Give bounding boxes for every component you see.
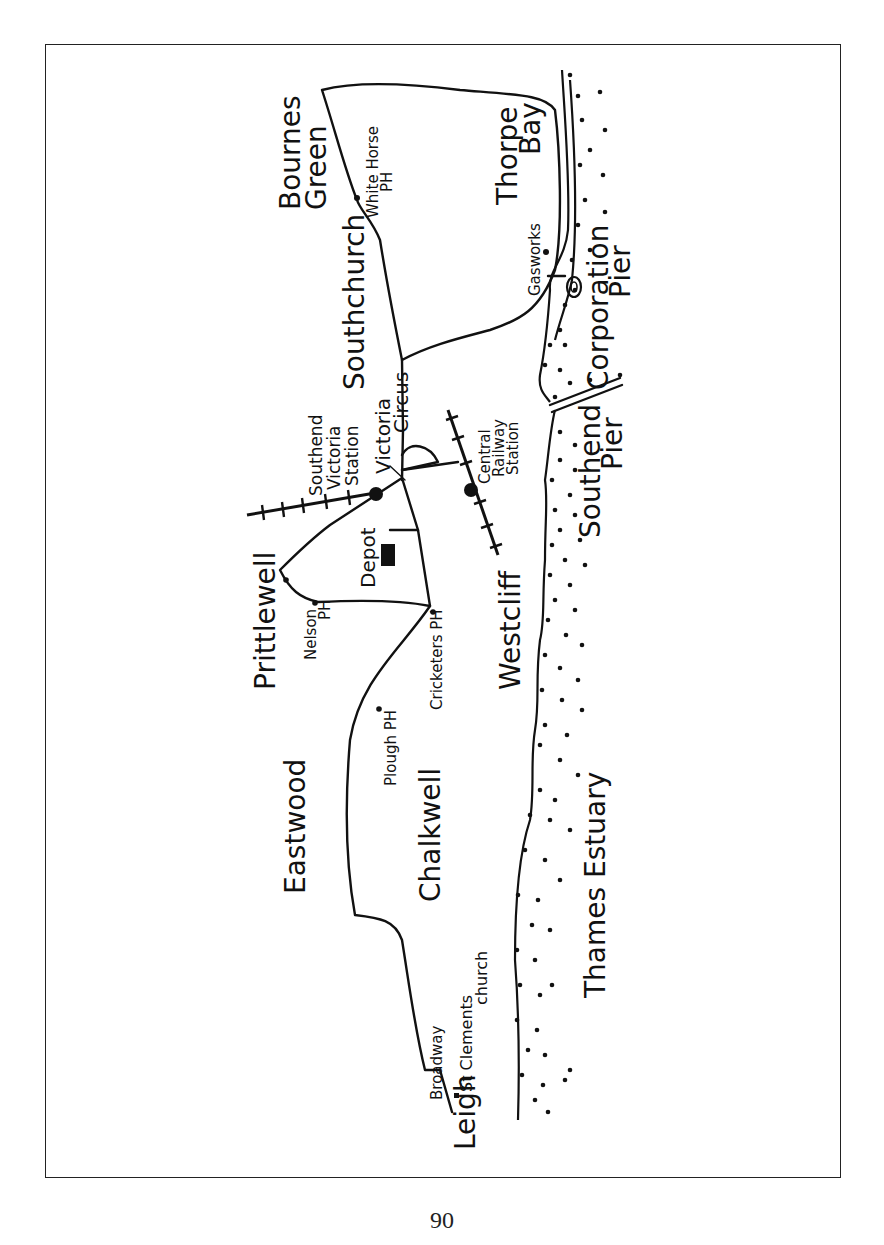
label-southend-pier-2: Pier — [596, 417, 629, 470]
plough-marker — [376, 706, 382, 712]
label-southend: Southend — [306, 415, 326, 496]
label-westcliff: Westcliff — [494, 570, 527, 690]
white-horse-marker — [354, 195, 360, 201]
label-green: Green — [300, 125, 333, 210]
labels: Bournes Green White Horse PH Thorpe Bay … — [249, 95, 637, 1150]
label-bay: Bay — [514, 102, 547, 155]
label-broadway: Broadway — [428, 1026, 446, 1100]
label-gasworks: Gasworks — [526, 223, 544, 296]
label-railway-station: Station — [504, 422, 522, 475]
label-station: Station — [342, 426, 362, 486]
label-chalkwell: Chalkwell — [414, 768, 447, 902]
label-leigh: Leigh — [449, 1074, 482, 1150]
label-southchurch: Southchurch — [338, 214, 371, 390]
label-nelson-ph: PH — [316, 600, 334, 620]
victoria-station-marker — [369, 487, 383, 501]
depot-marker — [381, 544, 395, 566]
central-station-marker — [464, 483, 478, 497]
label-white-horse-ph: PH — [378, 172, 396, 192]
page-number: 90 — [0, 1207, 884, 1234]
label-church: church — [472, 951, 491, 1005]
tram-route-map: Bournes Green White Horse PH Thorpe Bay … — [0, 0, 884, 1245]
label-prittlewell: Prittlewell — [249, 552, 282, 690]
label-eastwood: Eastwood — [279, 759, 312, 894]
label-thames-estuary: Thames Estuary — [579, 772, 612, 999]
label-plough: Plough PH — [382, 710, 400, 786]
label-corporation-pier: Pier — [604, 245, 637, 298]
label-victoria-circus-2: Circus — [389, 372, 413, 433]
prittlewell-marker — [283, 577, 289, 583]
book-page: Bournes Green White Horse PH Thorpe Bay … — [0, 0, 884, 1245]
corporation-pier — [548, 276, 581, 297]
label-victoria: Victoria — [324, 425, 344, 490]
label-depot: Depot — [356, 527, 380, 588]
label-cricketers: Cricketers PH — [428, 609, 446, 710]
